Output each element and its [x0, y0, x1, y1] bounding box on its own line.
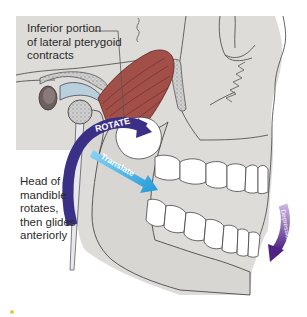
condyle-callout-line-5: anteriorly: [20, 229, 76, 243]
muscle-callout-line-2: of lateral pterygoid: [27, 36, 122, 50]
muscle-callout: Inferior portion of lateral pterygoid co…: [27, 22, 122, 63]
mandibular-condyle: [68, 100, 92, 124]
condyle-callout-line-2: mandible: [20, 189, 76, 203]
condyle-callout: Head of mandible rotates, then glides an…: [20, 175, 76, 243]
muscle-callout-line-3: contracts: [27, 49, 122, 63]
condyle-callout-line-4: then glides: [20, 216, 76, 230]
footer-marker: [10, 310, 14, 314]
muscle-callout-line-1: Inferior portion: [27, 22, 122, 36]
condyle-callout-line-3: rotates,: [20, 202, 76, 216]
condyle-callout-line-1: Head of: [20, 175, 76, 189]
